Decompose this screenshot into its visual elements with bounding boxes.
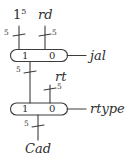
input-rd-label: rd xyxy=(38,8,53,21)
width-label-mux-jal-output: 5 xyxy=(16,66,21,74)
width-label-input-rd: 5 xyxy=(52,29,57,37)
input-one-label: 15 xyxy=(13,8,26,21)
width-label-input-one: 5 xyxy=(4,29,9,37)
mux-rtype-body xyxy=(11,103,68,115)
mux-rtype-select-label: rtype xyxy=(90,102,125,115)
width-label-output-cad: 5 xyxy=(24,120,29,128)
mux-jal-port-one[interactable]: 1 xyxy=(22,51,28,61)
mux-datapath-diagram: 15 rd 5 5 1 0 jal 5 rt 5 1 0 rtype 5 Cad xyxy=(0,0,130,164)
mux-jal-select-label: jal xyxy=(90,49,106,62)
mux-rtype-port-zero[interactable]: 0 xyxy=(49,104,55,114)
mux-jal-port-zero[interactable]: 0 xyxy=(49,51,55,61)
width-label-input-rt: 5 xyxy=(57,83,62,91)
mux-rtype-port-one[interactable]: 1 xyxy=(22,104,28,114)
output-cad-label: Cad xyxy=(25,142,51,155)
mux-jal-body xyxy=(11,50,68,62)
